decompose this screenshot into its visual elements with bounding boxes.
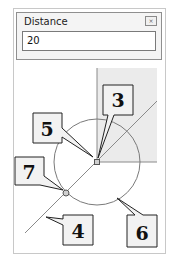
svg-text:7: 7 (22, 161, 35, 183)
svg-text:6: 6 (135, 222, 148, 244)
diagram-canvas: 3 5 7 4 6 (0, 0, 176, 260)
callout-6: 6 (117, 198, 157, 247)
callout-5: 5 (33, 113, 93, 157)
center-point-marker (95, 160, 100, 165)
svg-text:4: 4 (71, 220, 84, 242)
svg-text:3: 3 (111, 89, 124, 111)
callout-4: 4 (46, 215, 93, 245)
svg-text:5: 5 (40, 118, 53, 140)
intersection-point-marker (63, 190, 69, 196)
